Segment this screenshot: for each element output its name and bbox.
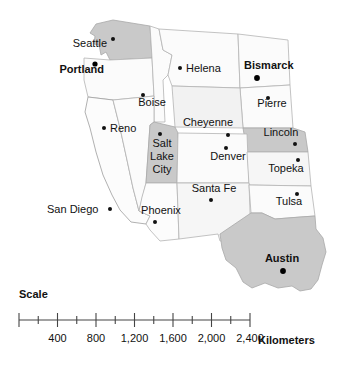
city-dot (102, 126, 106, 130)
city-dot (226, 133, 230, 137)
city-label: Santa Fe (192, 182, 237, 194)
scale-tick-label: 400 (48, 332, 66, 344)
city-label: San Diego (47, 203, 98, 215)
city-dot (178, 66, 182, 70)
city-label: Seattle (73, 37, 107, 49)
city-dot (254, 75, 260, 81)
city-label: Bismarck (244, 59, 294, 71)
scale-tick-label: 2,000 (198, 332, 226, 344)
city-label: Topeka (268, 162, 304, 174)
city-dot (209, 198, 213, 202)
city-label: Salt (153, 137, 172, 149)
city-dot (153, 220, 157, 224)
scale-bar: Scale 4008001,2001,6002,0002,400 Kilomet… (19, 288, 315, 346)
scale-tick-label: 800 (87, 332, 105, 344)
city-label: Boise (138, 96, 166, 108)
state-montana (159, 29, 240, 88)
map-figure: SeattlePortlandHelenaBismarckBoisePierre… (0, 0, 350, 367)
city-label: Portland (59, 63, 104, 75)
scale-tick-labels: 4008001,2001,6002,0002,400 (48, 332, 263, 344)
city-label: City (153, 163, 172, 175)
city-dot (158, 132, 162, 136)
city-label: Lake (150, 150, 174, 162)
city-label: Austin (265, 252, 300, 264)
scale-ticks (19, 313, 250, 327)
city-label: Helena (186, 62, 222, 74)
city-dot (280, 268, 286, 274)
scale-unit-label: Kilometers (258, 334, 315, 346)
city-label: Cheyenne (183, 116, 233, 128)
city-label: Denver (210, 150, 246, 162)
city-label: Lincoln (264, 126, 299, 138)
scale-tick-label: 1,600 (159, 332, 187, 344)
city-label: Reno (110, 122, 136, 134)
scale-tick-label: 1,200 (121, 332, 149, 344)
city-label: Pierre (257, 97, 286, 109)
scale-title: Scale (19, 288, 48, 300)
city-dot (108, 207, 112, 211)
city-dot (111, 37, 115, 41)
western-us-map: SeattlePortlandHelenaBismarckBoisePierre… (0, 0, 350, 367)
city-label: Phoenix (141, 204, 181, 216)
city-dot (293, 142, 297, 146)
city-label: Tulsa (276, 195, 303, 207)
